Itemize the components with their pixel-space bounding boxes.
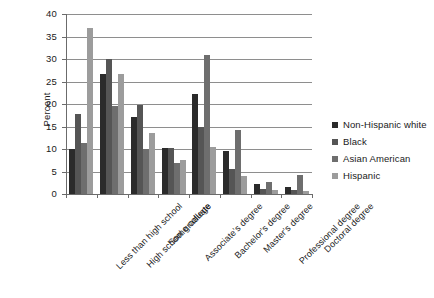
- bar: [149, 133, 155, 194]
- legend-swatch-icon: [332, 156, 338, 162]
- legend-item[interactable]: Non-Hispanic white: [332, 116, 427, 133]
- x-axis-tick-mark: [128, 194, 129, 198]
- x-axis-tick-mark: [220, 194, 221, 198]
- y-axis-tick-label: 25: [33, 77, 57, 87]
- legend-swatch-icon: [332, 139, 338, 145]
- legend-item-label: Black: [343, 136, 367, 147]
- y-axis-tick-label: 0: [33, 189, 57, 199]
- legend-item[interactable]: Hispanic: [332, 167, 427, 184]
- x-axis-tick-mark: [189, 194, 190, 198]
- y-axis-tick-label: 30: [33, 54, 57, 64]
- gridline: [66, 37, 312, 38]
- y-axis-tick-label: 15: [33, 122, 57, 132]
- y-axis-tick-label: 10: [33, 144, 57, 154]
- bar-chart: Percent 4035302520151050 Less than high …: [0, 0, 434, 298]
- bar: [87, 28, 93, 194]
- legend-swatch-icon: [332, 173, 338, 179]
- y-axis-tick-label: 5: [33, 167, 57, 177]
- legend-item-label: Asian American: [343, 153, 410, 164]
- x-axis-tick-mark: [97, 194, 98, 198]
- y-axis-line: [66, 14, 67, 195]
- bar: [210, 147, 216, 194]
- x-axis-tick-mark: [66, 194, 67, 198]
- x-axis-tick-mark: [158, 194, 159, 198]
- bar: [180, 160, 186, 194]
- gridline: [66, 59, 312, 60]
- gridline: [66, 14, 312, 15]
- y-axis-tick-label: 40: [33, 9, 57, 19]
- legend-item-label: Hispanic: [343, 170, 380, 181]
- legend-item[interactable]: Black: [332, 133, 427, 150]
- legend: Non-Hispanic whiteBlackAsian AmericanHis…: [332, 116, 427, 184]
- x-axis-tick-mark: [312, 194, 313, 198]
- legend-swatch-icon: [332, 122, 338, 128]
- x-axis-tick-mark: [251, 194, 252, 198]
- legend-item-label: Non-Hispanic white: [343, 119, 427, 130]
- bar: [118, 74, 124, 194]
- legend-item[interactable]: Asian American: [332, 150, 427, 167]
- y-axis-tick-label: 35: [33, 32, 57, 42]
- y-axis-tick-label: 20: [33, 99, 57, 109]
- bar: [241, 176, 247, 194]
- plot-area: [66, 14, 312, 194]
- x-axis-tick-mark: [281, 194, 282, 198]
